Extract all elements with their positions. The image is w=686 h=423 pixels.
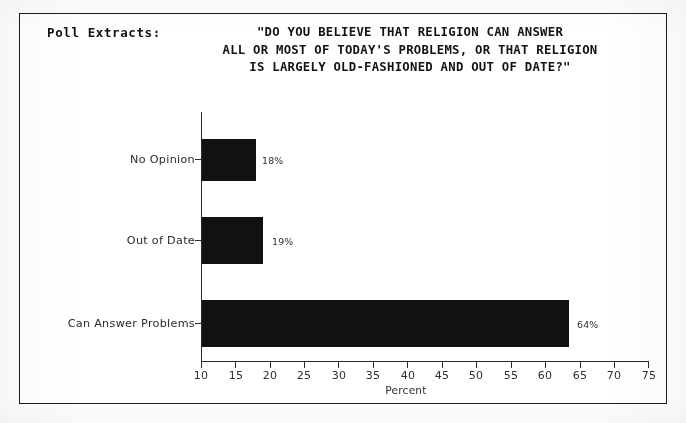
x-tick-40 bbox=[407, 362, 408, 368]
x-tick-label-20: 20 bbox=[257, 369, 283, 382]
x-tick-35 bbox=[373, 362, 374, 368]
bar-out-of-date bbox=[202, 217, 263, 264]
y-tick-can-answer-problems bbox=[195, 323, 202, 324]
bar-value-out-of-date: 19% bbox=[272, 236, 293, 247]
bar-can-answer-problems bbox=[202, 300, 569, 347]
x-tick-label-35: 35 bbox=[360, 369, 386, 382]
chart-frame: Poll Extracts: "DO YOU BELIEVE THAT RELI… bbox=[19, 13, 667, 404]
x-tick-15 bbox=[235, 362, 236, 368]
bar-value-can-answer-problems: 64% bbox=[577, 319, 598, 330]
scanned-page: Poll Extracts: "DO YOU BELIEVE THAT RELI… bbox=[0, 0, 686, 423]
x-tick-label-50: 50 bbox=[463, 369, 489, 382]
x-tick-label-70: 70 bbox=[601, 369, 627, 382]
x-tick-label-55: 55 bbox=[498, 369, 524, 382]
x-tick-label-10: 10 bbox=[188, 369, 214, 382]
y-tick-out-of-date bbox=[195, 240, 202, 241]
x-tick-label-15: 15 bbox=[223, 369, 249, 382]
bar-label-no-opinion: No Opinion bbox=[75, 153, 195, 166]
x-tick-30 bbox=[338, 362, 339, 368]
x-tick-45 bbox=[442, 362, 443, 368]
x-tick-label-40: 40 bbox=[395, 369, 421, 382]
bar-value-no-opinion: 18% bbox=[262, 155, 283, 166]
bar-no-opinion bbox=[202, 139, 256, 181]
x-tick-label-30: 30 bbox=[326, 369, 352, 382]
x-tick-10 bbox=[201, 362, 202, 368]
x-axis-line bbox=[201, 361, 649, 362]
x-tick-20 bbox=[270, 362, 271, 368]
x-tick-label-75: 75 bbox=[636, 369, 662, 382]
x-tick-50 bbox=[476, 362, 477, 368]
x-axis-title: Percent bbox=[351, 384, 461, 396]
bar-chart-plot: No Opinion 18% Out of Date 19% Can Answe… bbox=[20, 14, 668, 405]
x-tick-label-25: 25 bbox=[291, 369, 317, 382]
x-tick-75 bbox=[648, 362, 649, 368]
x-tick-65 bbox=[580, 362, 581, 368]
x-tick-60 bbox=[545, 362, 546, 368]
x-tick-label-60: 60 bbox=[532, 369, 558, 382]
x-tick-55 bbox=[511, 362, 512, 368]
x-tick-25 bbox=[304, 362, 305, 368]
x-tick-label-65: 65 bbox=[567, 369, 593, 382]
x-tick-70 bbox=[614, 362, 615, 368]
y-tick-no-opinion bbox=[195, 159, 202, 160]
bar-label-can-answer-problems: Can Answer Problems bbox=[45, 317, 195, 330]
x-tick-label-45: 45 bbox=[429, 369, 455, 382]
bar-label-out-of-date: Out of Date bbox=[75, 234, 195, 247]
